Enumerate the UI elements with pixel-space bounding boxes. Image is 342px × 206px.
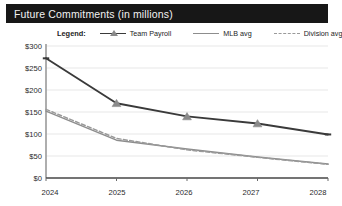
legend-item-team-payroll: Team Payroll (100, 29, 172, 38)
chart-canvas (0, 40, 334, 206)
legend-item-division-avg: Division avg (274, 29, 342, 38)
x-tick-2026: 2026 (167, 188, 201, 197)
legend-title: Legend: (57, 29, 86, 38)
page-title: Future Commitments (in millions) (6, 8, 173, 20)
legend-label-mlb-avg: MLB avg (223, 29, 251, 38)
legend-label-division-avg: Division avg (304, 29, 342, 38)
legend-swatch-mlb-avg (193, 29, 219, 38)
plot-area: $300 $250 $200 $150 $100 $50 $0 2024 202… (0, 40, 334, 206)
y-tick-150: $150 (8, 108, 42, 117)
legend-label-team-payroll: Team Payroll (130, 29, 172, 38)
y-tick-300: $300 (8, 42, 42, 51)
y-tick-250: $250 (8, 64, 42, 73)
y-tick-200: $200 (8, 86, 42, 95)
x-tick-2028: 2028 (301, 188, 335, 197)
legend-swatch-team-payroll (100, 29, 126, 38)
legend-swatch-division-avg (274, 29, 300, 38)
series-line-team-payroll (46, 58, 328, 134)
x-tick-2025: 2025 (100, 188, 134, 197)
y-tick-50: $50 (8, 152, 42, 161)
x-tick-2024: 2024 (33, 188, 67, 197)
chart-legend: Legend: Team Payroll MLB avg Division av… (57, 29, 342, 38)
y-tick-100: $100 (8, 130, 42, 139)
title-bar: Future Commitments (in millions) (6, 4, 328, 23)
y-tick-0: $0 (8, 174, 42, 183)
triangle-marker-icon (110, 30, 118, 36)
x-tick-2027: 2027 (234, 188, 268, 197)
legend-item-mlb-avg: MLB avg (193, 29, 251, 38)
